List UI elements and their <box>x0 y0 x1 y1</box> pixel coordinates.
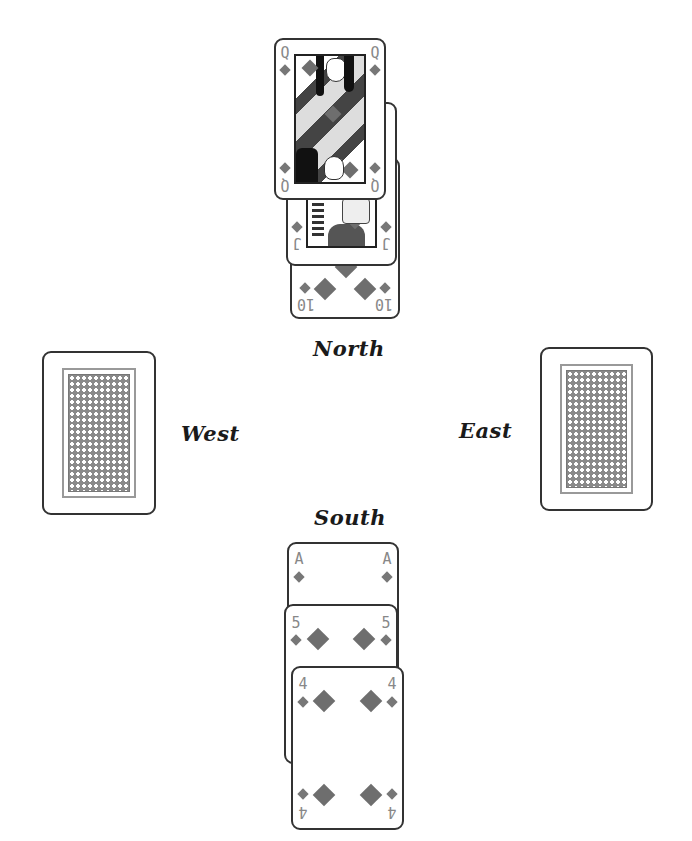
west-label: West <box>181 421 240 446</box>
diamond-icon <box>379 282 390 293</box>
card-rank: Q <box>368 177 382 192</box>
diamond-icon <box>380 221 391 232</box>
card-rank: A <box>380 552 394 567</box>
diamond-icon <box>279 64 290 75</box>
south-label: South <box>314 505 386 530</box>
west-card-back[interactable] <box>42 351 156 515</box>
card-rank: 4 <box>385 677 399 692</box>
diamond-icon <box>314 278 337 301</box>
diamond-icon <box>360 690 383 713</box>
north-card-queen-diamonds[interactable]: Q Q Q Q <box>274 38 386 200</box>
card-rank: Q <box>278 46 292 61</box>
card-rank: Q <box>368 46 382 61</box>
east-card-back[interactable] <box>540 347 653 511</box>
east-label: East <box>459 418 512 443</box>
diamond-icon <box>386 696 397 707</box>
diamond-icon <box>290 634 301 645</box>
card-rank: A <box>292 552 306 567</box>
card-rank: 10 <box>297 296 315 311</box>
card-rank: 4 <box>296 677 310 692</box>
diamond-icon <box>297 696 308 707</box>
card-rank: 4 <box>296 804 310 819</box>
south-card-4-diamonds[interactable]: 4 4 4 4 <box>291 666 404 830</box>
diamond-icon <box>380 634 391 645</box>
diamond-icon <box>354 278 377 301</box>
queen-face-art <box>294 54 366 184</box>
north-label: North <box>313 336 385 361</box>
diamond-icon <box>353 628 376 651</box>
diamond-icon <box>369 162 380 173</box>
card-back-pattern <box>560 364 633 494</box>
card-rank: 4 <box>385 804 399 819</box>
diamond-icon <box>299 282 310 293</box>
diamond-icon <box>381 571 392 582</box>
diamond-icon <box>313 690 336 713</box>
diamond-icon <box>369 64 380 75</box>
diamond-icon <box>291 221 302 232</box>
card-rank: 5 <box>289 616 303 631</box>
card-back-pattern <box>62 368 136 498</box>
card-rank: Q <box>278 177 292 192</box>
diamond-icon <box>386 788 397 799</box>
diamond-icon <box>297 788 308 799</box>
diamond-icon <box>313 784 336 807</box>
card-rank: 5 <box>379 616 393 631</box>
diamond-icon <box>360 784 383 807</box>
card-rank: J <box>379 235 393 250</box>
diamond-icon <box>279 162 290 173</box>
card-rank: J <box>290 235 304 250</box>
diamond-icon <box>293 571 304 582</box>
card-rank: 10 <box>375 296 393 311</box>
diamond-icon <box>307 628 330 651</box>
